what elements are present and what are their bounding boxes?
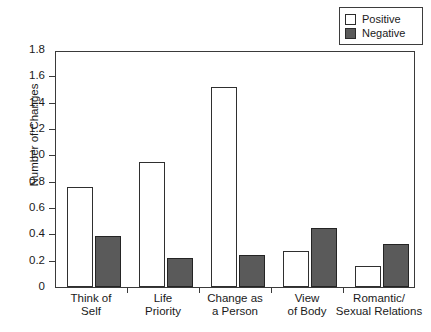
- bar-negative-2: [239, 255, 265, 287]
- legend-label-positive: Positive: [362, 13, 401, 25]
- bar-positive-0: [67, 187, 93, 287]
- bar-negative-0: [95, 236, 121, 287]
- y-tick-label: 1.8: [0, 43, 45, 55]
- bar-positive-2: [211, 87, 237, 287]
- bar-positive-3: [283, 251, 309, 287]
- y-tick-label: 1.0: [0, 148, 45, 160]
- plot-area: [55, 51, 415, 288]
- bar-negative-1: [167, 258, 193, 287]
- legend-item-negative: Negative: [345, 26, 417, 40]
- legend-label-negative: Negative: [362, 27, 405, 39]
- x-category-line: Romantic/: [329, 292, 429, 305]
- bar-negative-4: [383, 244, 409, 287]
- bar-positive-1: [139, 162, 165, 287]
- y-tick-label: 0.8: [0, 175, 45, 187]
- bars-container: [56, 52, 414, 287]
- x-category-line: Sexual Relations: [329, 305, 429, 318]
- y-tick-label: 1.4: [0, 96, 45, 108]
- y-tick-label: 1.2: [0, 122, 45, 134]
- y-tick-label: 0.6: [0, 201, 45, 213]
- bar-negative-3: [311, 228, 337, 287]
- negative-swatch-icon: [345, 28, 356, 39]
- chart-legend: Positive Negative: [339, 7, 423, 45]
- bar-positive-4: [355, 266, 381, 287]
- y-tick-label: 0.2: [0, 254, 45, 266]
- y-tick-label: 1.6: [0, 69, 45, 81]
- positive-swatch-icon: [345, 14, 356, 25]
- y-tick-label: 0.4: [0, 227, 45, 239]
- x-category-label-4: Romantic/Sexual Relations: [329, 292, 429, 318]
- legend-item-positive: Positive: [345, 12, 417, 26]
- y-tick-label: 0: [0, 280, 45, 292]
